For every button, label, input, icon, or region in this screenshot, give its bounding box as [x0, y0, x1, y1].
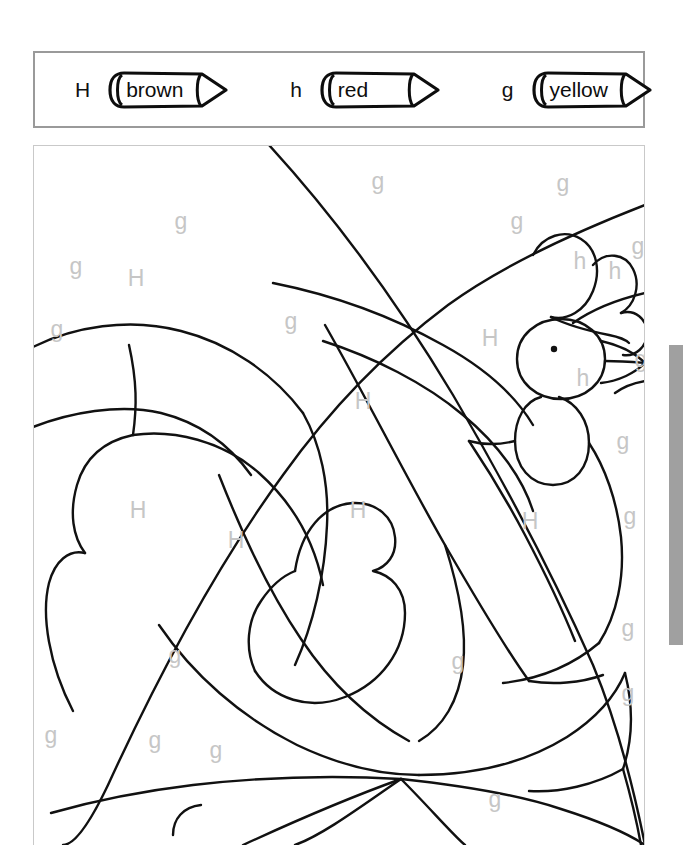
region-letter: H	[228, 527, 245, 553]
region-letter: g	[70, 253, 83, 279]
region-letter: H	[482, 325, 499, 351]
legend-entry-h: h red	[290, 69, 454, 111]
coloring-picture-frame: g g g g g h h g H g g H g h H g H H H H …	[33, 145, 645, 845]
region-letter: g	[624, 503, 637, 529]
region-letter: g	[372, 168, 385, 194]
region-letter: g	[632, 233, 645, 259]
region-letter: h	[609, 258, 622, 284]
region-letter: g	[617, 428, 630, 454]
region-letter: g	[622, 615, 635, 641]
region-letter: g	[635, 346, 645, 372]
region-letter: H	[130, 497, 147, 523]
legend-letter-H: H	[75, 79, 90, 100]
legend-entry-H: H brown	[75, 69, 242, 111]
region-letter: g	[622, 680, 635, 706]
legend-entry-g: g yellow	[502, 69, 666, 111]
region-letter: g	[169, 642, 182, 668]
region-letter: h	[577, 365, 590, 391]
color-key-row: H brown h red g	[35, 53, 643, 126]
region-letter: h	[574, 248, 587, 274]
region-letter: g	[489, 786, 502, 812]
vertical-scrollbar-thumb[interactable]	[669, 345, 683, 645]
region-letter: g	[51, 316, 64, 342]
region-letter: H	[128, 265, 145, 291]
region-letter: H	[355, 388, 372, 414]
region-letter: g	[45, 722, 58, 748]
region-letter-group: g g g g g h h g H g g H g h H g H H H H …	[45, 168, 645, 812]
region-letter: g	[175, 208, 188, 234]
region-letter: g	[452, 648, 465, 674]
crayon-icon-red: red	[314, 69, 454, 111]
crayon-icon-yellow: yellow	[526, 69, 666, 111]
region-letter: g	[511, 208, 524, 234]
crayon-icon-brown: brown	[102, 69, 242, 111]
legend-letter-g: g	[502, 79, 514, 100]
rooster-line-art: g g g g g h h g H g g H g h H g H H H H …	[33, 145, 645, 845]
region-letter: H	[350, 497, 367, 523]
region-letter: g	[557, 170, 570, 196]
region-letter: H	[522, 508, 539, 534]
legend-letter-h: h	[290, 79, 302, 100]
region-letter: g	[285, 308, 298, 334]
region-letter: g	[210, 737, 223, 763]
region-letter: g	[149, 727, 162, 753]
color-key-box: H brown h red g	[33, 51, 645, 128]
